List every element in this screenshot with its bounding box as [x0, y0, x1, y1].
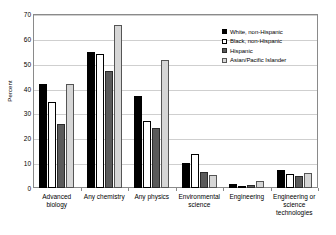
- category-label-line: science: [170, 201, 230, 209]
- legend-swatch-icon: [222, 29, 227, 34]
- bar: [87, 52, 95, 188]
- bar: [304, 173, 312, 188]
- bar: [96, 54, 104, 188]
- bar: [247, 185, 255, 188]
- x-tick-mark: [223, 188, 224, 191]
- legend-swatch-icon: [222, 48, 227, 53]
- bar-group: [176, 14, 224, 188]
- y-tick-label: 60: [5, 35, 31, 42]
- category-label: Engineering orsciencetechnologies: [265, 193, 325, 217]
- bar: [286, 174, 294, 188]
- x-tick-mark: [318, 188, 319, 191]
- legend-label: Asian/Pacific Islander: [230, 57, 286, 63]
- bar: [114, 25, 122, 188]
- category-label-line: Engineering or: [265, 193, 325, 201]
- bar: [105, 71, 113, 188]
- x-tick-mark: [128, 188, 129, 191]
- bar: [209, 175, 217, 188]
- bar: [182, 163, 190, 188]
- bar: [229, 184, 237, 188]
- bar: [48, 102, 56, 188]
- legend-label: Black, non-Hispanic: [230, 38, 282, 44]
- legend-item: Asian/Pacific Islander: [222, 56, 318, 66]
- y-tick-label: 70: [5, 11, 31, 18]
- category-label-line: biology: [27, 201, 87, 209]
- y-axis-title: Percent: [7, 61, 13, 121]
- x-tick-mark: [271, 188, 272, 191]
- bar: [143, 121, 151, 188]
- y-tick-label: 10: [5, 160, 31, 167]
- legend-item: White, non-Hispanic: [222, 27, 318, 37]
- bar-group: [33, 14, 81, 188]
- bar: [191, 154, 199, 188]
- legend-swatch-icon: [222, 58, 227, 63]
- bar: [200, 172, 208, 188]
- bar: [39, 84, 47, 188]
- bar: [238, 186, 246, 188]
- bar: [161, 60, 169, 188]
- legend-swatch-icon: [222, 39, 227, 44]
- bar: [57, 124, 65, 188]
- bar: [295, 176, 303, 188]
- category-label-line: technologies: [265, 209, 325, 217]
- bar: [66, 84, 74, 188]
- y-tick-label: 0: [5, 185, 31, 192]
- legend-label: White, non-Hispanic: [230, 29, 283, 35]
- bar-group: [81, 14, 129, 188]
- x-tick-mark: [176, 188, 177, 191]
- bar: [152, 128, 160, 188]
- bar: [277, 170, 285, 188]
- legend-label: Hispanic: [230, 48, 253, 54]
- legend: White, non-HispanicBlack, non-HispanicHi…: [222, 27, 318, 65]
- bar: [134, 96, 142, 188]
- y-tick-label: 20: [5, 135, 31, 142]
- legend-item: Black, non-Hispanic: [222, 37, 318, 47]
- x-tick-mark: [81, 188, 82, 191]
- bar-group: [128, 14, 176, 188]
- legend-item: Hispanic: [222, 46, 318, 56]
- bar-chart: Percent 010203040506070 AdvancedbiologyA…: [0, 0, 336, 235]
- category-label-line: science: [265, 201, 325, 209]
- bar: [256, 181, 264, 188]
